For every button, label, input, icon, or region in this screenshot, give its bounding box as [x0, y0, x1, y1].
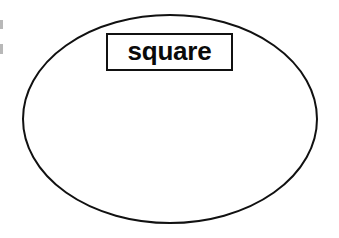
label-box: square [106, 33, 233, 71]
edge-artifact-upper [0, 20, 3, 29]
edge-artifact-lower [0, 44, 3, 54]
region-label-text: square [127, 38, 211, 64]
diagram-canvas: square [0, 0, 339, 238]
